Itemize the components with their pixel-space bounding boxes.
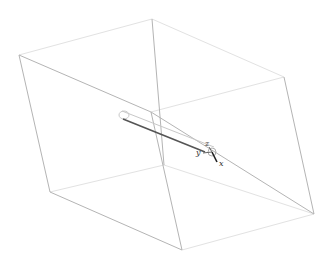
cylinder-rod[interactable] [119, 111, 214, 152]
y-axis-label: y [195, 148, 201, 157]
z-axis-label: z [204, 139, 210, 148]
box-hidden-edges [19, 19, 314, 250]
coordinate-triad: x y z [195, 139, 224, 168]
box-visible-edges [19, 19, 314, 250]
3d-viewport[interactable]: x y z [0, 0, 328, 262]
x-axis-label: x [219, 159, 224, 168]
